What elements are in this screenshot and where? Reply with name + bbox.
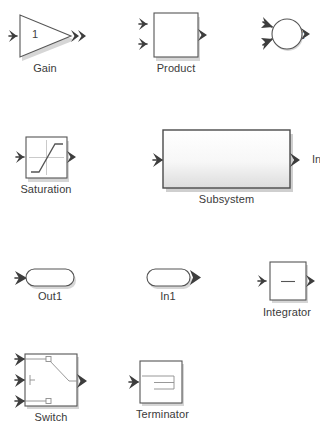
outport-label: Out1	[13, 290, 87, 302]
terminator-shape	[122, 350, 212, 415]
block-sum[interactable]: + +	[255, 0, 320, 70]
saturation-label: Saturation	[8, 183, 84, 195]
product-body	[154, 13, 198, 57]
subsystem-label: Subsystem	[163, 193, 290, 205]
subsystem-body	[163, 130, 290, 188]
integrator-label: Integrator	[250, 306, 320, 318]
block-library-canvas: 1 Gain X Product	[0, 0, 320, 447]
subsystem-shape	[145, 118, 320, 198]
sum-input-arrowhead-2	[261, 38, 273, 50]
integrator-shape	[252, 250, 320, 310]
product-label: Product	[131, 62, 221, 74]
switch-label: Switch	[17, 411, 85, 423]
switch-contact-bottom	[46, 399, 51, 404]
sum-circle	[272, 19, 302, 49]
sum-shape	[255, 0, 320, 70]
inport-output-arrowhead	[190, 270, 201, 285]
gain-label: Gain	[0, 62, 90, 74]
subsystem-inport-label: In 1	[312, 153, 320, 165]
gain-value: 1	[32, 28, 38, 40]
block-integrator[interactable]: 1 s	[252, 250, 320, 310]
terminator-body	[140, 361, 182, 403]
terminator-label: Terminator	[120, 408, 205, 420]
block-terminator[interactable]	[122, 350, 212, 415]
block-subsystem[interactable]: In 1 Out1	[145, 118, 320, 198]
block-switch[interactable]: > 0	[8, 345, 103, 415]
switch-contact-top	[46, 357, 51, 362]
inport-body	[147, 269, 190, 286]
switch-shape	[8, 345, 103, 415]
gain-output-arrowhead-2	[78, 30, 86, 42]
inport-label: In1	[134, 290, 202, 302]
outport-body	[26, 269, 74, 286]
